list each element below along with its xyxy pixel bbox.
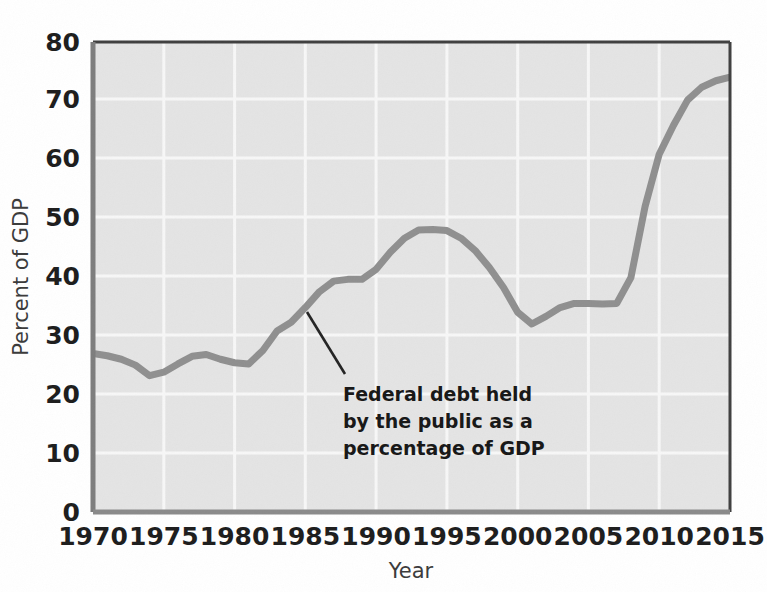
x-tick-1980: 1980	[200, 522, 270, 551]
x-tick-1990: 1990	[341, 522, 411, 551]
x-axis-tick-labels: 1970 1975 1980 1985 1990 1995 2000 2005 …	[58, 522, 765, 551]
y-axis-tick-labels: 80 70 60 50 40 30 20 10 0	[45, 28, 80, 527]
y-tick-60: 60	[45, 144, 80, 173]
callout-line-1: Federal debt held	[343, 383, 532, 405]
y-tick-30: 30	[45, 321, 80, 350]
x-tick-2000: 2000	[483, 522, 553, 551]
y-axis-title: Percent of GDP	[9, 198, 33, 356]
x-tick-1975: 1975	[129, 522, 199, 551]
y-tick-70: 70	[45, 85, 80, 114]
debt-to-gdp-line-chart: Federal debt held by the public as a per…	[0, 0, 767, 592]
y-tick-80: 80	[45, 28, 80, 57]
y-tick-10: 10	[45, 439, 80, 468]
callout-line-2: by the public as a	[343, 410, 533, 432]
y-tick-40: 40	[45, 262, 80, 291]
x-tick-1995: 1995	[412, 522, 482, 551]
x-tick-2015: 2015	[695, 522, 765, 551]
chart-figure: Federal debt held by the public as a per…	[0, 0, 767, 592]
y-tick-20: 20	[45, 380, 80, 409]
x-tick-2010: 2010	[624, 522, 694, 551]
callout-line-3: percentage of GDP	[343, 437, 545, 459]
x-tick-2005: 2005	[554, 522, 624, 551]
x-tick-1970: 1970	[58, 522, 128, 551]
x-axis-title: Year	[388, 559, 434, 583]
y-tick-50: 50	[45, 203, 80, 232]
x-tick-1985: 1985	[271, 522, 341, 551]
